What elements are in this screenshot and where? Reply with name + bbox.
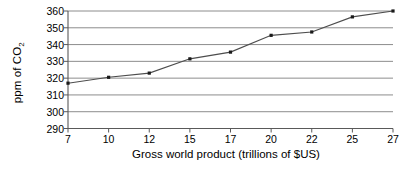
x-tick-label: 22 [306,134,318,145]
x-tick-label: 10 [103,134,115,145]
chart-figure: ppm of CO2 290300310320330340350360 7101… [0,0,414,180]
x-tick-label: 25 [347,134,359,145]
x-axis-tick-labels: 71012151720222527 [0,130,414,146]
data-point-marker [270,34,273,37]
x-tick-label: 15 [184,134,196,145]
gridlines [68,11,393,112]
x-tick-label: 7 [65,134,71,145]
x-tick-label: 17 [225,134,237,145]
data-point-marker [310,30,313,33]
data-point-marker [391,9,394,12]
x-tick-label: 20 [265,134,277,145]
data-point-marker [107,76,110,79]
data-point-markers [66,9,394,84]
x-tick-label: 12 [143,134,155,145]
data-point-marker [66,82,69,85]
data-point-marker [148,72,151,75]
data-point-marker [229,51,232,54]
y-axis-tick-marks [64,11,68,129]
data-line [68,11,393,83]
x-axis-title: Gross world product (trillions of $US) [0,148,414,160]
x-tick-label: 27 [387,134,399,145]
data-point-marker [188,57,191,60]
data-point-marker [351,15,354,18]
x-axis-title-text: Gross world product (trillions of $US) [94,148,320,160]
